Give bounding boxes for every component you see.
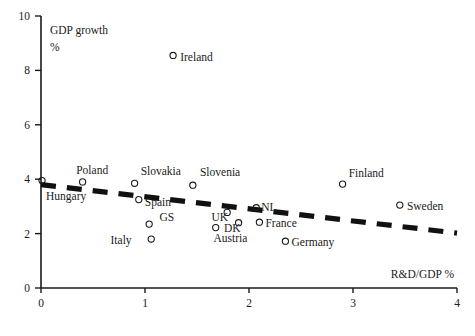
scatter-chart: 012340246810 IrelandHungaryPolandSlovaki… [0, 0, 475, 336]
marker-slovakia [132, 180, 138, 186]
y-tick-label-2: 4 [24, 173, 30, 185]
x-tick-label-2: 2 [246, 297, 252, 309]
label-poland: Poland [76, 164, 108, 176]
marker-ireland [170, 52, 176, 58]
label-ireland: Ireland [180, 51, 213, 63]
marker-poland [80, 179, 86, 185]
y-tick-label-1: 2 [24, 228, 30, 240]
label-sweden: Sweden [407, 200, 444, 212]
trend-line [41, 185, 457, 233]
y-axis-title-line1: GDP growth [50, 24, 108, 37]
label-finland: Finland [349, 167, 384, 179]
label-germany: Germany [291, 236, 334, 249]
label-gs: GS [159, 211, 174, 223]
marker-italy [148, 236, 154, 242]
x-axis-title: R&D/GDP % [391, 268, 455, 280]
x-tick-label-3: 3 [350, 297, 356, 309]
label-hungary: Hungary [46, 190, 86, 203]
marker-sweden [397, 202, 403, 208]
axes: 012340246810 [19, 10, 461, 309]
label-nl: NL [261, 201, 276, 213]
y-tick-label-3: 6 [24, 119, 30, 131]
marker-finland [340, 181, 346, 187]
x-tick-label-4: 4 [454, 297, 460, 309]
label-slovenia: Slovenia [200, 166, 240, 178]
trend-line-path [41, 185, 457, 233]
label-spain: Spain [145, 196, 171, 209]
marker-austria [213, 225, 219, 231]
label-slovakia: Slovakia [141, 165, 181, 177]
marker-slovenia [190, 182, 196, 188]
label-italy: Italy [111, 234, 132, 247]
data-labels: IrelandHungaryPolandSlovakiaSpainSloveni… [46, 51, 444, 250]
marker-germany [282, 238, 288, 244]
x-tick-label-0: 0 [38, 297, 44, 309]
y-tick-label-0: 0 [24, 282, 30, 294]
x-tick-label-1: 1 [142, 297, 148, 309]
marker-france [256, 219, 262, 225]
y-tick-label-5: 10 [19, 10, 31, 22]
marker-spain [136, 197, 142, 203]
label-france: France [265, 217, 296, 229]
marker-gs [146, 221, 152, 227]
y-tick-label-4: 8 [24, 64, 30, 76]
y-axis-title-line2: % [50, 41, 60, 53]
chart-canvas: 012340246810 IrelandHungaryPolandSlovaki… [0, 0, 475, 336]
label-austria: Austria [213, 232, 247, 244]
